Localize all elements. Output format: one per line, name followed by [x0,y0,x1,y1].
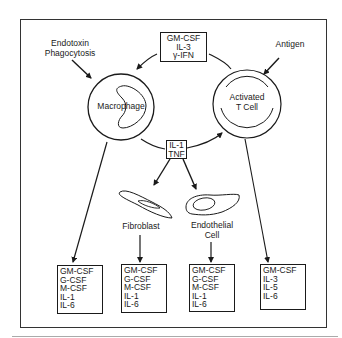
macrophage-stimulus-label: Endotoxin Phagocytosis [38,39,102,58]
cytokine-network-diagram: Endotoxin Phagocytosis Antigen Macrophag… [0,0,342,338]
macrophage-to-il1-line [141,139,165,149]
il1-to-fibroblast-arrow [154,159,170,185]
il1-to-endothelial-arrow [183,159,196,189]
cytokine-item: IL-6 [124,300,164,309]
cytokine-item: IL-6 [263,292,303,301]
fibroblast-cell-icon [119,191,172,218]
tcell-to-signal-line [209,54,231,69]
cytokine-item: IL-6 [192,300,232,309]
endothelial-label: Endothelial Cell [184,221,240,240]
output-box-endothelial: GM-CSF G-CSF M-CSF IL-1 IL-6 [189,264,235,312]
signal-to-macrophage-arrow [137,54,157,69]
signal-box-il1-tnf: IL-1 TNF [166,140,187,159]
fibroblast-label: Fibroblast [114,222,168,232]
macrophage-output-arrow [73,142,107,262]
macrophage-label: Macrophage [93,102,149,112]
signal-item: γ-IFN [163,51,204,60]
stimulus-phagocytosis: Phagocytosis [38,49,102,59]
signal-box-gmcsf-il3-ifn: GM-CSF IL-3 γ-IFN [160,32,207,62]
signal-item: TNF [168,150,185,159]
antigen-label: Antigen [270,40,310,50]
output-box-macrophage: GM-CSF G-CSF M-CSF IL-1 IL-6 [57,265,103,314]
endothelial-cell-icon [186,194,239,215]
output-box-fibroblast: GM-CSF G-CSF M-CSF IL-1 IL-6 [121,264,167,313]
antigen-arrow [264,58,279,74]
cytokine-item: IL-6 [60,301,100,310]
il1-to-tcell-arrow [187,133,222,148]
tcell-output-arrow [245,139,268,262]
output-box-tcell: GM-CSF IL-3 IL-5 IL-6 [260,264,306,310]
endothelial-label-line2: Cell [184,231,240,241]
endotoxin-arrow [72,60,91,78]
t-cell-label-line2: T Cell [222,103,272,113]
t-cell-label: Activated T Cell [222,93,272,112]
